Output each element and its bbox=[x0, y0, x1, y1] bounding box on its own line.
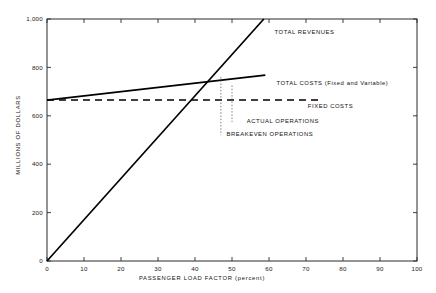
x-tick-label: 50 bbox=[228, 265, 236, 272]
y-tick-label: 200 bbox=[32, 209, 43, 216]
series-label-2: FIXED COSTS bbox=[308, 103, 353, 109]
x-axis-title: PASSENGER LOAD FACTOR (percent) bbox=[139, 275, 265, 281]
x-tick-label: 20 bbox=[117, 265, 125, 272]
y-tick-labels: 02004006008001,000 bbox=[26, 15, 43, 264]
y-tick-label: 800 bbox=[32, 64, 43, 71]
marker-label-1: ACTUAL OPERATIONS bbox=[247, 118, 319, 124]
series-label-1: TOTAL COSTS (Fixed and Variable) bbox=[276, 80, 388, 86]
y-axis-title: MILLIONS OF DOLLARS bbox=[15, 95, 21, 175]
x-tick-label: 80 bbox=[339, 265, 347, 272]
y-tick-label: 1,000 bbox=[26, 15, 43, 22]
x-tick-label: 90 bbox=[376, 265, 384, 272]
y-tick-label: 0 bbox=[39, 257, 43, 264]
series-line-1 bbox=[47, 75, 265, 100]
y-tick-label: 600 bbox=[32, 112, 43, 119]
x-tick-label: 10 bbox=[80, 265, 88, 272]
marker-lines bbox=[221, 77, 232, 135]
x-tick-label: 70 bbox=[302, 265, 310, 272]
x-tick-label: 100 bbox=[411, 265, 422, 272]
chart-canvas: 0102030405060708090100 02004006008001,00… bbox=[0, 0, 436, 293]
axis-titles: PASSENGER LOAD FACTOR (percent)MILLIONS … bbox=[15, 95, 265, 281]
x-tick-label: 40 bbox=[191, 265, 199, 272]
x-tick-labels: 0102030405060708090100 bbox=[45, 265, 423, 272]
x-tick-label: 60 bbox=[265, 265, 273, 272]
series-line-0 bbox=[47, 19, 264, 261]
x-tick-label: 0 bbox=[45, 265, 49, 272]
y-tick-label: 400 bbox=[32, 160, 43, 167]
x-tick-label: 30 bbox=[154, 265, 162, 272]
series-label-0: TOTAL REVENUES bbox=[275, 29, 335, 35]
series-annotations: TOTAL REVENUESTOTAL COSTS (Fixed and Var… bbox=[226, 29, 388, 137]
marker-label-0: BREAKEVEN OPERATIONS bbox=[226, 131, 313, 137]
data-series bbox=[47, 19, 321, 261]
breakeven-chart: 0102030405060708090100 02004006008001,00… bbox=[0, 0, 436, 293]
